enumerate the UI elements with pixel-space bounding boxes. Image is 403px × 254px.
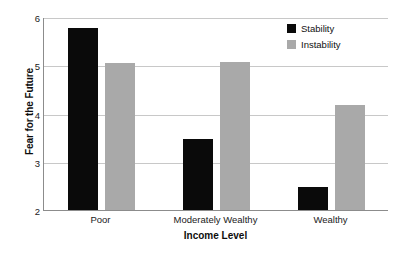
legend-label: Stability bbox=[301, 23, 334, 34]
y-tick-label: 4 bbox=[26, 109, 40, 120]
bar-stability-moderately-wealthy bbox=[183, 139, 213, 210]
x-axis-tick-labels: PoorModerately WealthyWealthy bbox=[43, 214, 388, 228]
bar-instability-moderately-wealthy bbox=[220, 62, 250, 210]
legend-item: Stability bbox=[287, 21, 341, 35]
x-tick-label: Poor bbox=[90, 214, 110, 225]
bar-chart: Fear for the Future 23456 PoorModerately… bbox=[0, 0, 403, 254]
legend-swatch-icon bbox=[287, 24, 296, 33]
legend-item: Instability bbox=[287, 37, 341, 51]
bar-stability-wealthy bbox=[298, 187, 328, 210]
y-tick-label: 6 bbox=[26, 13, 40, 24]
bar-instability-wealthy bbox=[335, 105, 365, 210]
bar-instability-poor bbox=[105, 63, 135, 210]
y-tick-label: 2 bbox=[26, 206, 40, 217]
y-tick-label: 5 bbox=[26, 61, 40, 72]
x-axis-title: Income Level bbox=[43, 230, 388, 241]
y-tick-label: 3 bbox=[26, 157, 40, 168]
y-axis-tick-labels: 23456 bbox=[22, 18, 40, 211]
x-tick-label: Moderately Wealthy bbox=[174, 214, 258, 225]
legend-swatch-icon bbox=[287, 40, 296, 49]
chart-legend: StabilityInstability bbox=[287, 21, 341, 53]
x-tick-label: Wealthy bbox=[313, 214, 347, 225]
bar-stability-poor bbox=[68, 28, 98, 210]
legend-label: Instability bbox=[301, 39, 341, 50]
